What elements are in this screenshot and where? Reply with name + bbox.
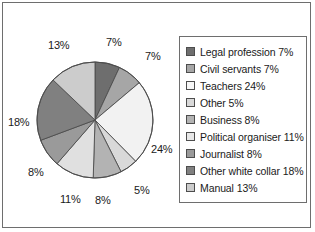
legend-item-label: Other white collar 18% [200,165,303,177]
legend-item[interactable]: Other white collar 18% [186,162,306,179]
chart-figure: 7%7%24%5%8%11%8%18%13% Legal profession … [2,2,311,228]
legend-item-label: Legal profession 7% [200,46,293,58]
legend-items: Legal profession 7%Civil servants 7%Teac… [186,43,306,196]
pie-slice-label: 11% [60,193,81,205]
legend-item-label: Journalist 8% [200,148,262,160]
legend-swatch-icon [186,98,195,107]
pie-slice-label: 18% [8,116,29,128]
legend-item[interactable]: Civil servants 7% [186,60,306,77]
legend-swatch-icon [186,166,195,175]
legend-item[interactable]: Political organiser 11% [186,128,306,145]
legend-swatch-icon [186,47,195,56]
pie-slice-label: 8% [95,194,111,206]
pie-slice-label: 7% [145,50,161,62]
legend: Legal profession 7%Civil servants 7%Teac… [179,36,307,203]
legend-swatch-icon [186,64,195,73]
pie-chart [3,3,179,227]
pie-slice-label: 24% [151,143,172,155]
legend-swatch-icon [186,183,195,192]
legend-item-label: Teachers 24% [200,80,265,92]
legend-item[interactable]: Legal profession 7% [186,43,306,60]
pie-slice-label: 7% [106,36,122,48]
legend-swatch-icon [186,132,195,141]
legend-item[interactable]: Journalist 8% [186,145,306,162]
pie-slice-label: 5% [134,184,150,196]
legend-item[interactable]: Manual 13% [186,179,306,196]
legend-item[interactable]: Other 5% [186,94,306,111]
pie-chart-area: 7%7%24%5%8%11%8%18%13% [3,3,179,227]
legend-swatch-icon [186,149,195,158]
legend-item-label: Civil servants 7% [200,63,279,75]
legend-item[interactable]: Business 8% [186,111,306,128]
legend-item-label: Political organiser 11% [200,131,304,143]
pie-slice-label: 13% [48,39,69,51]
legend-item-label: Manual 13% [200,182,257,194]
legend-item-label: Business 8% [200,114,260,126]
legend-swatch-icon [186,115,195,124]
pie-slice-label: 8% [28,166,44,178]
legend-item[interactable]: Teachers 24% [186,77,306,94]
legend-swatch-icon [186,81,195,90]
legend-item-label: Other 5% [200,97,244,109]
